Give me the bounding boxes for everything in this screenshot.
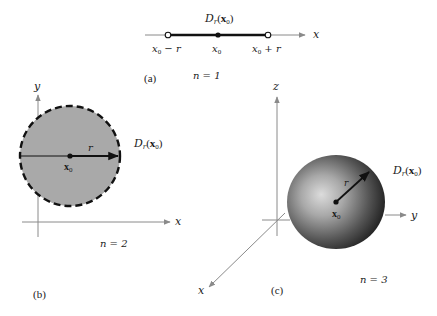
panel-c-ball: z y x r x0 Dr(x0) n = 3 (c): [198, 80, 422, 297]
center-point: [333, 199, 338, 204]
radius-label: r: [344, 178, 349, 188]
panel-b-caption: (b): [33, 288, 46, 301]
z-axis-label: z: [272, 80, 279, 93]
y-axis-label: y: [33, 80, 41, 93]
panel-a-caption: (a): [144, 72, 157, 85]
open-endpoint-right: [265, 32, 271, 38]
tick-label-left: x0 − r: [152, 43, 182, 56]
panel-a-interval: x Dr(x0) x0 − r x0 x0 + r (a) n = 1: [144, 12, 320, 85]
ball-label: Dr(x0): [392, 164, 422, 178]
dimension-label-n3: n = 3: [360, 274, 388, 285]
center-point: [215, 32, 220, 37]
tick-label-right: x0 + r: [252, 43, 282, 56]
x-axis-label: x: [313, 28, 320, 41]
ball-label: Dr(x0): [133, 137, 163, 151]
ball-label: Dr(x0): [204, 12, 234, 26]
open-ball-diagram: x Dr(x0) x0 − r x0 x0 + r (a) n = 1 y x …: [0, 0, 437, 316]
tick-label-center: x0: [212, 43, 222, 56]
y-axis-label: y: [410, 209, 418, 222]
x-axis-label: x: [198, 284, 205, 297]
x-axis-label: x: [175, 215, 182, 228]
x-axis-line: [209, 213, 285, 287]
panel-c-caption: (c): [271, 284, 284, 297]
panel-b-disk: y x r x0 Dr(x0) n = 2 (b): [20, 80, 182, 301]
center-point: [67, 153, 72, 158]
dimension-label-n2: n = 2: [100, 238, 128, 249]
open-endpoint-left: [165, 32, 171, 38]
dimension-label-n1: n = 1: [193, 70, 221, 81]
